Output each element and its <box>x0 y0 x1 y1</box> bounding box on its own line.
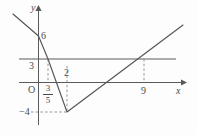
math-graph-figure: y x O 6 3 3 5 2 −4 9 <box>0 0 197 135</box>
fraction-numerator: 3 <box>42 84 54 93</box>
y-axis-label: y <box>31 3 35 13</box>
label-level-3: 3 <box>29 61 34 71</box>
x-axis-label: x <box>176 86 180 96</box>
x-axis-arrowhead <box>181 79 187 85</box>
y-axis-arrowhead <box>35 5 41 11</box>
label-vertex-y-minus-4: −4 <box>19 107 30 117</box>
label-vertex-x-2: 2 <box>64 68 69 78</box>
label-x-9: 9 <box>141 86 146 96</box>
fraction-denominator: 5 <box>42 96 54 105</box>
label-x-intercept-three-fifths: 3 5 <box>42 84 54 105</box>
origin-label: O <box>28 85 35 95</box>
label-y-intercept-6: 6 <box>41 31 46 41</box>
